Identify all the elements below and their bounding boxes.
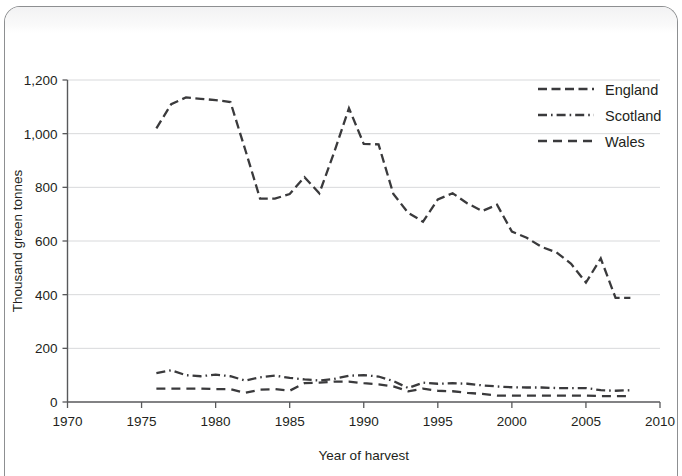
legend-label-wales: Wales xyxy=(605,134,645,150)
data-series xyxy=(156,97,630,396)
legend-label-scotland: Scotland xyxy=(605,108,661,124)
y-axis-title: Thousand green tonnes xyxy=(10,169,25,312)
series-line-england xyxy=(156,97,630,297)
y-tick-label: 1,000 xyxy=(24,127,58,142)
axis-ticks xyxy=(63,80,661,408)
x-tick-label: 1970 xyxy=(52,414,82,429)
x-axis-title: Year of harvest xyxy=(319,448,410,463)
y-tick-label: 200 xyxy=(35,341,58,356)
x-tick-label: 1980 xyxy=(201,414,231,429)
series-line-scotland xyxy=(156,370,630,390)
x-tick-label: 2010 xyxy=(645,414,675,429)
x-tick-label: 2000 xyxy=(497,414,527,429)
y-tick-labels: 02004006008001,0001,200 xyxy=(24,73,58,410)
y-tick-label: 400 xyxy=(35,288,58,303)
chart-legend: EnglandScotlandWales xyxy=(538,82,661,150)
y-tick-label: 600 xyxy=(35,234,58,249)
x-tick-label: 1990 xyxy=(349,414,379,429)
y-tick-label: 800 xyxy=(35,180,58,195)
x-tick-labels: 197019751980198519901995200020052010 xyxy=(52,414,675,429)
y-tick-label: 0 xyxy=(50,395,58,410)
x-tick-label: 2005 xyxy=(571,414,601,429)
x-tick-label: 1985 xyxy=(275,414,305,429)
gridlines xyxy=(68,80,661,348)
legend-label-england: England xyxy=(605,82,658,98)
x-tick-label: 1975 xyxy=(127,414,157,429)
y-tick-label: 1,200 xyxy=(24,73,58,88)
x-tick-label: 1995 xyxy=(423,414,453,429)
